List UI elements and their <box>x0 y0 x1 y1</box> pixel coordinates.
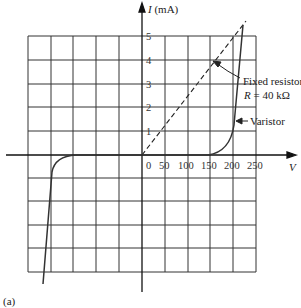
figure-label: (a) <box>3 296 15 307</box>
y-tick-5: 5 <box>146 31 151 42</box>
x-tick-50: 50 <box>159 160 170 171</box>
axes <box>6 3 296 292</box>
y-tick-1: 1 <box>146 126 151 137</box>
resistor-value: R = 40 kΩ <box>244 90 290 101</box>
resistor-line <box>142 21 246 155</box>
resistor-equation: = 40 kΩ <box>253 89 289 101</box>
x-tick-200: 200 <box>224 160 240 171</box>
resistor-label: Fixed resistor <box>243 76 301 87</box>
y-tick-2: 2 <box>146 102 151 113</box>
varistor-label: Varistor <box>250 116 285 127</box>
x-tick-0: 0 <box>146 160 151 171</box>
resistor-variable: R <box>244 89 251 101</box>
y-axis-label: I (mA) <box>148 4 178 15</box>
x-tick-100: 100 <box>178 160 194 171</box>
y-axis-unit: (mA) <box>154 3 178 15</box>
x-tick-250: 250 <box>247 160 263 171</box>
annotation-arrows <box>213 61 248 124</box>
x-tick-150: 150 <box>201 160 217 171</box>
y-axis-variable: I <box>148 3 152 15</box>
y-tick-3: 3 <box>146 79 151 90</box>
y-tick-4: 4 <box>146 55 151 66</box>
x-axis-label: V <box>289 162 296 173</box>
iv-chart <box>0 0 301 308</box>
